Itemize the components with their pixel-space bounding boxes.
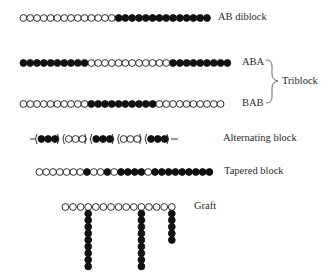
filled-bead: [192, 169, 199, 176]
filled-bead: [93, 136, 100, 143]
open-bead: [149, 60, 156, 67]
open-bead: [50, 169, 57, 176]
filled-bead: [142, 101, 149, 108]
bab-label: BAB: [242, 97, 264, 108]
chains-layer: [20, 15, 231, 176]
open-bead: [40, 15, 47, 22]
filled-bead: [154, 136, 161, 143]
filled-bead: [199, 169, 206, 176]
open-bead: [136, 60, 143, 67]
branch-bead: [138, 256, 145, 263]
open-bead: [70, 169, 77, 176]
open-bead: [56, 169, 63, 176]
branch-bead: [138, 217, 145, 224]
branch-bead: [85, 243, 92, 250]
open-bead: [217, 101, 224, 108]
filled-bead: [183, 60, 190, 67]
filled-bead: [163, 15, 170, 22]
open-bead: [47, 101, 54, 108]
backbone-bead: [153, 204, 160, 211]
open-bead: [170, 101, 177, 108]
filled-bead: [176, 15, 183, 22]
open-paren: [36, 134, 38, 144]
backbone-bead: [146, 204, 153, 211]
open-bead: [34, 101, 41, 108]
filled-bead: [204, 15, 211, 22]
open-bead: [79, 136, 86, 143]
branch-bead: [85, 237, 92, 244]
filled-bead: [20, 60, 27, 67]
open-bead: [120, 136, 127, 143]
open-bead: [68, 101, 75, 108]
open-bead: [20, 101, 27, 108]
filled-bead: [197, 15, 204, 22]
filled-bead: [161, 136, 168, 143]
filled-bead: [204, 60, 211, 67]
backbone-bead: [115, 204, 122, 211]
filled-bead: [210, 60, 217, 67]
filled-bead: [74, 60, 81, 67]
open-bead: [95, 15, 102, 22]
filled-bead: [84, 169, 91, 176]
open-bead: [210, 101, 217, 108]
filled-bead: [47, 60, 54, 67]
open-bead: [122, 60, 129, 67]
branch-bead: [138, 243, 145, 250]
open-bead: [108, 15, 115, 22]
open-bead: [61, 101, 68, 108]
open-bead: [81, 15, 88, 22]
branch-bead: [168, 223, 175, 230]
graft-copolymer-chain: [62, 204, 175, 270]
filled-bead: [179, 169, 186, 176]
open-bead: [68, 15, 75, 22]
filled-bead: [217, 60, 224, 67]
open-bead: [74, 101, 81, 108]
branch-bead: [168, 217, 175, 224]
open-bead: [20, 15, 27, 22]
branch-bead: [85, 210, 92, 217]
backbone-bead: [77, 204, 84, 211]
filled-bead: [183, 15, 190, 22]
open-bead: [142, 60, 149, 67]
filled-bead: [190, 60, 197, 67]
open-bead: [108, 60, 115, 67]
backbone-bead: [161, 204, 168, 211]
open-bead: [27, 101, 34, 108]
branch-bead: [85, 223, 92, 230]
backbone-bead: [168, 204, 175, 211]
filled-bead: [104, 169, 111, 176]
filled-bead: [45, 136, 52, 143]
backbone-bead: [108, 204, 115, 211]
filled-bead: [38, 136, 45, 143]
open-paren: [145, 134, 147, 144]
filled-bead: [95, 101, 102, 108]
open-bead: [163, 60, 170, 67]
open-bead: [54, 101, 61, 108]
branch-bead: [85, 230, 92, 237]
open-bead: [74, 15, 81, 22]
bab-triblock-chain: [20, 101, 224, 108]
filled-bead: [138, 169, 145, 176]
open-bead: [204, 101, 211, 108]
filled-bead: [34, 60, 41, 67]
open-bead: [54, 15, 61, 22]
ab-diblock-chain: [20, 15, 210, 22]
open-bead: [81, 101, 88, 108]
backbone-bead: [123, 204, 130, 211]
branch-bead: [85, 256, 92, 263]
filled-bead: [88, 101, 95, 108]
filled-bead: [61, 60, 68, 67]
aba-label: ABA: [242, 56, 264, 67]
filled-bead: [170, 15, 177, 22]
open-bead: [163, 101, 170, 108]
filled-bead: [54, 60, 61, 67]
backbone-bead: [92, 204, 99, 211]
filled-bead: [81, 60, 88, 67]
graft-label: Graft: [194, 200, 216, 211]
filled-bead: [165, 169, 172, 176]
backbone-bead: [85, 204, 92, 211]
filled-bead: [115, 15, 122, 22]
tapered-block-label: Tapered block: [224, 165, 284, 176]
filled-bead: [149, 15, 156, 22]
open-bead: [72, 136, 79, 143]
